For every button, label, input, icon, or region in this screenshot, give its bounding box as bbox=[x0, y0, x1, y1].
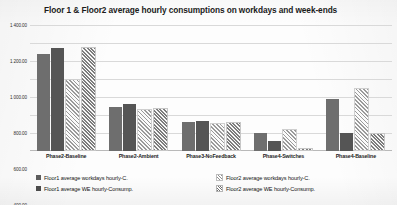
y-axis-tick-label: 1 000.00 bbox=[10, 95, 27, 100]
category-label: Phase4-Switches bbox=[247, 153, 319, 159]
bar bbox=[370, 133, 385, 151]
legend-label: Floor2 average WE hourly-Consump. bbox=[226, 186, 315, 192]
bar-chart: Floor 1 & Floor2 average hourly consumpt… bbox=[0, 0, 397, 205]
chart-legend: Floor1 average workdays hourly-C.Floor2 … bbox=[36, 172, 386, 194]
x-axis-category-labels: Phase2-BaselinePhase2-AmbientPhase3-NoFe… bbox=[30, 153, 392, 159]
bar bbox=[268, 141, 281, 151]
bar bbox=[109, 107, 122, 151]
legend-swatch-icon bbox=[36, 186, 41, 191]
bar bbox=[37, 54, 50, 151]
legend-label: Floor2 average workdays hourly-C. bbox=[226, 175, 310, 181]
y-axis-tick-label: 600.00 bbox=[14, 167, 27, 172]
bar bbox=[81, 47, 96, 151]
y-axis-tick-label: 800.00 bbox=[14, 131, 27, 136]
legend-item[interactable]: Floor2 average workdays hourly-C. bbox=[216, 172, 386, 183]
bar bbox=[65, 79, 80, 151]
category-label: Phase4-Baseline bbox=[320, 153, 392, 159]
bar-group bbox=[320, 25, 392, 151]
legend-item[interactable]: Floor1 average workdays hourly-C. bbox=[36, 172, 206, 183]
bar-group bbox=[30, 25, 102, 151]
legend-item[interactable]: Floor2 average WE hourly-Consump. bbox=[216, 183, 386, 194]
bar bbox=[196, 121, 209, 151]
legend-swatch-icon bbox=[216, 174, 223, 181]
category-label: Phase2-Ambient bbox=[102, 153, 174, 159]
bar bbox=[137, 109, 152, 151]
plot-area: 200.00400.00600.00800.001 000.001 200.00… bbox=[30, 25, 392, 151]
bar bbox=[298, 148, 313, 151]
bar bbox=[354, 88, 369, 151]
legend-label: Floor1 average workdays hourly-C. bbox=[44, 175, 128, 181]
legend-swatch-icon bbox=[216, 185, 223, 192]
bar-group bbox=[175, 25, 247, 151]
legend-label: Floor1 average WE hourly-Consump. bbox=[44, 186, 133, 192]
y-axis-tick-label: 1 200.00 bbox=[10, 59, 27, 64]
bar bbox=[123, 104, 136, 151]
chart-title: Floor 1 & Floor2 average hourly consumpt… bbox=[44, 5, 384, 15]
bar bbox=[153, 108, 168, 151]
bar bbox=[51, 48, 64, 152]
legend-item[interactable]: Floor1 average WE hourly-Consump. bbox=[36, 183, 206, 194]
bar-group bbox=[247, 25, 319, 151]
legend-swatch-icon bbox=[36, 175, 41, 180]
bar bbox=[210, 123, 225, 151]
bar bbox=[226, 122, 241, 151]
bar bbox=[282, 129, 297, 151]
bar bbox=[340, 133, 353, 151]
bar-groups bbox=[30, 25, 392, 151]
bar bbox=[182, 122, 195, 151]
y-axis-tick-label: 1 400.00 bbox=[10, 23, 27, 28]
bar-group bbox=[102, 25, 174, 151]
category-label: Phase3-NoFeedback bbox=[175, 153, 247, 159]
bar bbox=[254, 133, 267, 151]
y-axis-tick-label: 400.00 bbox=[14, 203, 27, 206]
bar bbox=[326, 99, 339, 151]
category-label: Phase2-Baseline bbox=[30, 153, 102, 159]
